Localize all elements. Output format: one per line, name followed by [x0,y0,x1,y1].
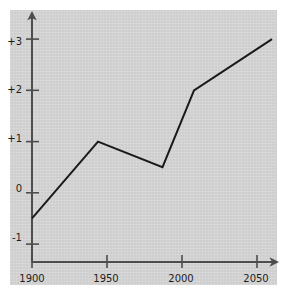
x-tick-label-1900: 1900 [12,274,52,284]
y-tick-label-0: 0 [0,184,22,194]
data-line-series-1 [32,39,272,218]
x-tick-label-2050: 2050 [236,274,276,284]
plot-canvas [0,0,286,297]
x-tick-label-2000: 2000 [161,274,201,284]
y-tick-label-3: +3 [0,37,22,47]
x-tick-label-1950: 1950 [86,274,126,284]
y-tick-label-1: +1 [0,134,22,144]
y-tick-label-neg1: -1 [0,233,22,243]
y-tick-label-2: +2 [0,85,22,95]
chart-figure: +3 +2 +1 0 -1 1900 1950 2000 2050 [0,0,286,297]
